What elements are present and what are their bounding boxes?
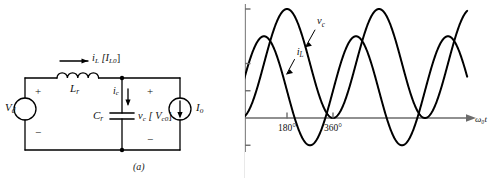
inductor-coil (57, 73, 99, 78)
iL-annotation: iL (286, 46, 303, 75)
node-dot-top (120, 76, 124, 80)
inductor-label: Lr (70, 82, 79, 96)
capacitor-minus: − (147, 133, 153, 145)
node-dot-bottom (120, 148, 124, 152)
ic-arrowhead (125, 100, 130, 106)
series-label: iL (297, 46, 304, 59)
capacitor-voltage-label: vc [ Vc0] (138, 110, 172, 123)
current-source-arrowhead (177, 112, 182, 119)
waveform-svg: 2.01.00.50−0.5180°360° ω₀tvciL (245, 0, 490, 182)
waveform-panel: 2.01.00.50−0.5180°360° ω₀tvciL (b) (245, 0, 490, 182)
capacitor-label: Cr (93, 109, 103, 123)
voltage-source-label: Vd (5, 101, 15, 115)
circuit-panel: Vd + − Lr iL [IL0] ic Cr vc [ Vc0] + − I… (0, 0, 245, 182)
capacitor-current-label: ic (113, 85, 119, 96)
x-tick-label: 180° (278, 123, 296, 133)
x-tick-label: 360° (324, 123, 342, 133)
caption-a: (a) (133, 161, 145, 172)
series-label-sub: L (299, 51, 304, 59)
x-axis-label: ω₀t (475, 114, 487, 124)
series-label: vc (317, 15, 326, 28)
figure-root: Vd + − Lr iL [IL0] ic Cr vc [ Vc0] + − I… (0, 0, 490, 182)
capacitor-plus: + (147, 85, 153, 97)
inductor-current-label: iL [IL0] (92, 52, 120, 65)
voltage-source-plus: + (35, 85, 41, 97)
vc-annotation: vc (305, 15, 325, 47)
voltage-source-symbol (14, 98, 36, 120)
il-arrowhead (82, 58, 89, 63)
series-label-sub: c (322, 21, 326, 29)
current-source-label: Io (196, 101, 203, 115)
voltage-source-minus: − (35, 126, 41, 138)
